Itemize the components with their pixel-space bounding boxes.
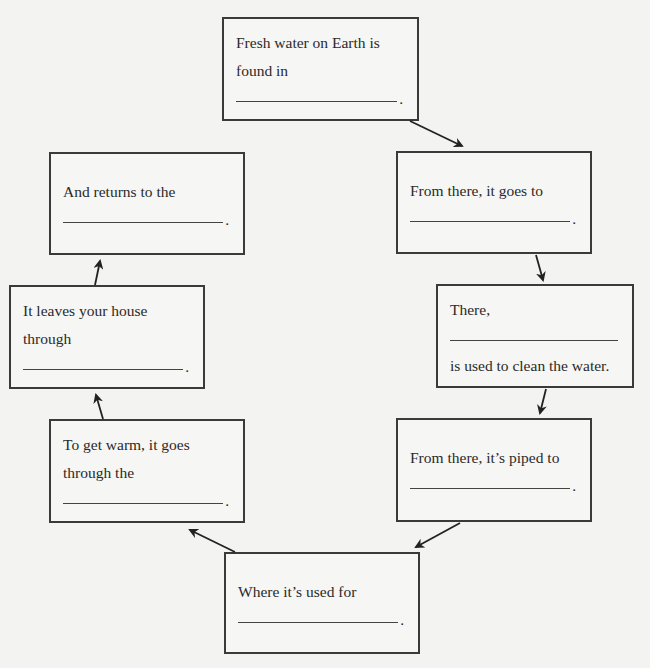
box-get-warm: To get warm, it goes through the .	[49, 419, 245, 523]
answer-blank[interactable]: .	[23, 353, 191, 381]
answer-blank[interactable]: .	[410, 472, 578, 500]
box-text: There,	[450, 296, 620, 324]
answer-blank[interactable]: .	[63, 206, 231, 234]
box-text: To get warm, it goes	[63, 431, 231, 459]
box-leaves-house: It leaves your house through .	[9, 285, 205, 389]
answer-blank[interactable]: .	[410, 205, 578, 233]
arrow-icon	[190, 530, 235, 552]
answer-blank[interactable]	[450, 324, 626, 352]
arrow-icon	[536, 255, 543, 280]
box-used-for: Where it’s used for .	[224, 552, 420, 654]
answer-blank[interactable]: .	[238, 606, 406, 634]
box-text: Where it’s used for	[238, 578, 406, 606]
box-text: From there, it’s piped to	[410, 444, 578, 472]
arrow-icon	[96, 395, 103, 419]
box-text: Fresh water on Earth is	[236, 29, 405, 57]
box-cleaning: There, is used to clean the water.	[436, 284, 634, 388]
box-text: is used to clean the water.	[450, 352, 620, 380]
box-text: It leaves your house	[23, 297, 191, 325]
box-goes-to: From there, it goes to .	[396, 151, 592, 254]
box-fresh-water-source: Fresh water on Earth is found in .	[222, 17, 419, 121]
box-text: through	[23, 325, 191, 353]
box-text: through the	[63, 459, 231, 487]
box-returns-to: And returns to the .	[49, 152, 245, 255]
box-piped-to: From there, it’s piped to .	[396, 418, 592, 522]
box-text: From there, it goes to	[410, 177, 578, 205]
answer-blank[interactable]: .	[63, 487, 231, 515]
arrow-icon	[410, 121, 462, 146]
box-text: found in	[236, 57, 405, 85]
box-text: And returns to the	[63, 178, 231, 206]
answer-blank[interactable]: .	[236, 85, 405, 113]
arrow-icon	[416, 523, 460, 547]
arrow-icon	[540, 389, 546, 413]
arrow-icon	[95, 261, 100, 285]
